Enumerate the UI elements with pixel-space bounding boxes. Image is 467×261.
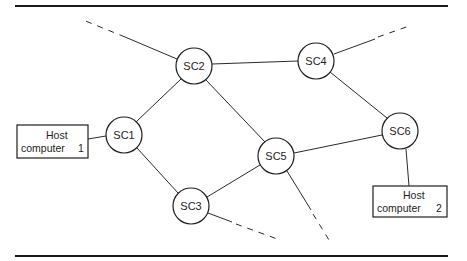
host-1-number: 1 — [78, 142, 84, 154]
stub-sc4-dashed — [378, 25, 412, 37]
stub-sc2-dashed — [83, 20, 125, 37]
node-sc4: SC4 — [298, 43, 334, 79]
host-computer-1: Host computer 1 — [17, 125, 88, 158]
host-computer-2: Host computer 2 — [373, 186, 447, 217]
link-host1-sc1 — [88, 136, 106, 139]
link-sc1-sc2 — [136, 79, 181, 122]
network-diagram: Host computer 1 Host computer 2 SC1 SC2 … — [0, 0, 467, 261]
host-2-number: 2 — [436, 202, 442, 214]
node-sc5-label: SC5 — [265, 150, 286, 162]
stub-sc5-dashed — [313, 214, 329, 240]
node-sc2-label: SC2 — [183, 60, 204, 72]
node-sc2: SC2 — [176, 48, 212, 84]
link-sc1-sc3 — [137, 148, 178, 193]
link-sc6-host2 — [406, 149, 409, 186]
stub-sc3-solid — [208, 213, 232, 222]
link-sc4-sc6 — [330, 72, 387, 118]
link-sc5-sc6 — [294, 135, 382, 153]
node-sc6: SC6 — [382, 113, 418, 149]
stub-sc3-dashed — [236, 224, 280, 240]
link-sc2-sc4 — [212, 61, 298, 64]
node-sc1: SC1 — [106, 117, 142, 153]
host-2-line1: Host — [403, 189, 425, 201]
node-sc6-label: SC6 — [389, 125, 410, 137]
stub-sc2-solid — [125, 37, 177, 59]
stub-sc5-solid — [287, 171, 311, 210]
host-1-line2: computer — [21, 142, 65, 154]
host-2-line2: computer — [377, 202, 421, 214]
node-sc1-label: SC1 — [113, 129, 134, 141]
link-sc3-sc5 — [207, 165, 260, 197]
stub-sc4-solid — [334, 39, 375, 54]
node-sc5: SC5 — [258, 138, 294, 174]
link-sc2-sc5 — [206, 80, 265, 142]
node-sc4-label: SC4 — [305, 55, 326, 67]
node-sc3-label: SC3 — [180, 200, 201, 212]
node-sc3: SC3 — [173, 188, 209, 224]
host-1-line1: Host — [46, 129, 68, 141]
